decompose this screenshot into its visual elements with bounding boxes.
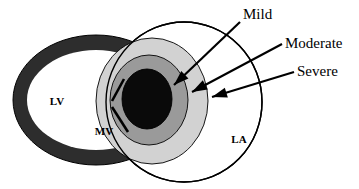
diagram-svg: Mild Moderate Severe LV LA MV xyxy=(0,0,359,189)
label-moderate: Moderate xyxy=(285,35,343,51)
label-lv: LV xyxy=(50,95,65,107)
label-mv: MV xyxy=(95,125,114,137)
jet-zone-mild[interactable] xyxy=(122,69,172,129)
diagram-canvas: Mild Moderate Severe LV LA MV xyxy=(0,0,359,189)
label-severe: Severe xyxy=(297,63,338,79)
label-la: LA xyxy=(231,133,247,145)
label-mild: Mild xyxy=(243,6,273,22)
